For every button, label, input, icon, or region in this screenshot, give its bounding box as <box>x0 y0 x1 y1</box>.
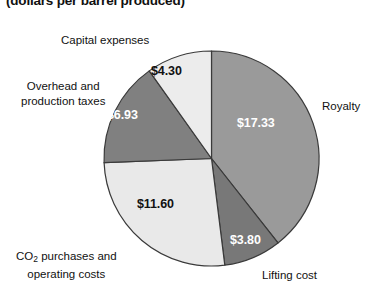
callout-co2-text-post: purchases and <box>38 250 117 262</box>
value-label-lifting-cost: $3.80 <box>230 233 261 247</box>
pie-chart <box>0 0 375 288</box>
value-label-royalty: $17.33 <box>237 116 275 130</box>
callout-overhead-line2: production taxes <box>21 94 105 109</box>
value-label-overhead-production-taxes: $6.93 <box>107 108 138 122</box>
pie-slice-co2-purchases-and-operating-costs <box>104 159 225 267</box>
callout-lifting-cost: Lifting cost <box>262 268 317 282</box>
value-label-co2-purchases: $11.60 <box>137 197 174 211</box>
chart-canvas: (dollars per barrel produced) Capital ex… <box>0 0 375 288</box>
pie-slice-group <box>104 51 319 266</box>
value-label-capital-expenses: $4.30 <box>151 64 182 78</box>
callout-co2-line2: operating costs <box>16 267 117 282</box>
callout-co2-purchases-operating-costs: CO2 purchases and operating costs <box>16 249 117 281</box>
callout-overhead-production-taxes: Overhead and production taxes <box>21 79 105 108</box>
callout-co2-text-pre: CO <box>16 250 33 262</box>
callout-royalty: Royalty <box>322 99 360 113</box>
callout-co2-line1: CO2 purchases and <box>16 249 117 267</box>
callout-capital-expenses: Capital expenses <box>61 33 149 47</box>
callout-overhead-line1: Overhead and <box>21 79 105 94</box>
